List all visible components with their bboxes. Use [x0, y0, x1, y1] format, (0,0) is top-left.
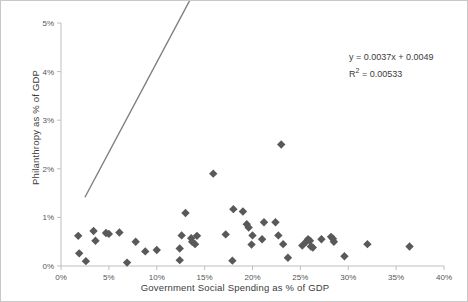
data-point	[248, 231, 256, 239]
data-point	[284, 254, 292, 262]
x-axis-title: Government Social Spending as % of GDP	[1, 282, 468, 293]
data-point	[405, 242, 413, 250]
data-point	[363, 240, 371, 248]
data-point	[221, 230, 229, 238]
y-tick-label: 4%	[42, 68, 54, 77]
data-point	[317, 235, 325, 243]
data-point	[181, 209, 189, 217]
data-point	[153, 246, 161, 254]
x-tick-label: 5%	[103, 273, 115, 282]
data-point	[260, 218, 268, 226]
y-axis-tick-labels: 0%1%2%3%4%5%	[42, 19, 54, 271]
data-point	[258, 235, 266, 243]
y-tick-label: 5%	[42, 19, 54, 28]
data-point	[177, 231, 185, 239]
y-tick-label: 3%	[42, 116, 54, 125]
data-point	[91, 237, 99, 245]
x-tick-label: 10%	[149, 273, 165, 282]
data-point	[176, 256, 184, 264]
trendline-equation: y = 0.0037x + 0.0049	[349, 51, 434, 64]
data-point	[229, 205, 237, 213]
x-tick-label: 25%	[292, 273, 308, 282]
data-point	[74, 232, 82, 240]
data-point	[141, 247, 149, 255]
y-tick-label: 1%	[42, 213, 54, 222]
data-point	[75, 249, 83, 257]
data-point	[274, 231, 282, 239]
scatter-chart: 0%5%10%15%20%25%30%35%40% 0%1%2%3%4%5% G…	[0, 0, 468, 302]
x-tick-label: 0%	[55, 273, 67, 282]
y-tick-label: 2%	[42, 165, 54, 174]
data-point	[340, 252, 348, 260]
trendline-annotation: y = 0.0037x + 0.0049 R2 = 0.00533	[349, 51, 434, 81]
x-tick-label: 40%	[436, 273, 452, 282]
data-point	[239, 207, 247, 215]
data-point	[82, 257, 90, 265]
plot-area: 0%5%10%15%20%25%30%35%40% 0%1%2%3%4%5%	[1, 1, 468, 302]
data-point	[176, 244, 184, 252]
data-point	[89, 227, 97, 235]
data-point	[277, 140, 285, 148]
data-points	[74, 140, 414, 266]
data-point	[209, 169, 217, 177]
data-point	[115, 228, 123, 236]
trendline-path	[85, 1, 411, 197]
data-point	[279, 240, 287, 248]
trendline	[85, 1, 411, 197]
r-squared-label: R2 = 0.00533	[349, 64, 434, 81]
data-point	[271, 218, 279, 226]
r-squared-value: = 0.00533	[359, 69, 402, 79]
x-tick-label: 20%	[244, 273, 260, 282]
y-axis-ticks	[57, 23, 61, 266]
x-tick-label: 30%	[340, 273, 356, 282]
data-point	[247, 240, 255, 248]
x-tick-label: 15%	[197, 273, 213, 282]
x-tick-label: 35%	[388, 273, 404, 282]
y-tick-label: 0%	[42, 262, 54, 271]
y-axis-title: Philanthropy as % of GDP	[30, 28, 41, 228]
data-point	[228, 256, 236, 264]
x-axis-tick-labels: 0%5%10%15%20%25%30%35%40%	[55, 273, 452, 282]
data-point	[131, 238, 139, 246]
x-axis-ticks	[61, 266, 444, 270]
